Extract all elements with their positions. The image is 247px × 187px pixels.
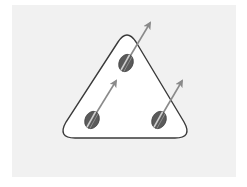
triangle-boundary — [63, 35, 187, 138]
triangle-particle-diagram — [0, 0, 247, 187]
